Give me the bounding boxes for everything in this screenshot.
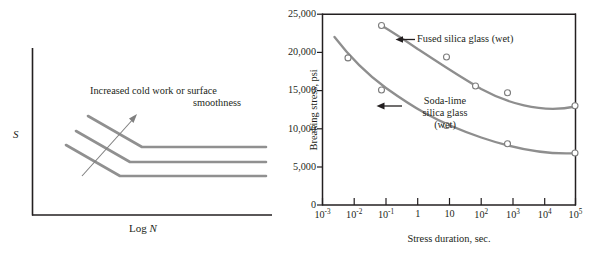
- left-annotation-line-2: smoothness: [90, 97, 255, 109]
- left-y-axis-label: S: [13, 128, 19, 140]
- x-axis-title: Stress duration, sec.: [407, 233, 490, 245]
- left-curve-group: [66, 116, 266, 176]
- x-tick-label-1e-1: 10-1: [378, 208, 394, 221]
- annotation-fused-silica: Fused silica glass (wet): [417, 33, 513, 45]
- y-tick-label-5000: 5,000: [254, 161, 316, 172]
- x-tick-mantissa: 10: [474, 209, 484, 220]
- x-tick-mantissa: 1: [415, 208, 420, 219]
- annotation-soda-line-3: (wet): [408, 119, 482, 131]
- x-tick-mantissa: 10: [314, 209, 324, 220]
- left-chart-annotation: Increased cold work or surface smoothnes…: [90, 85, 255, 108]
- annotation-soda-line-1: Soda-lime: [408, 95, 482, 107]
- left-x-axis-label-var: N: [150, 222, 157, 234]
- x-tick-marks: [323, 198, 576, 205]
- x-tick-mantissa: 10: [444, 208, 454, 219]
- y-tick-label-25000: 25,000: [254, 8, 316, 19]
- x-tick-exponent: -2: [356, 208, 362, 216]
- x-tick-label-1: 1: [415, 208, 420, 219]
- x-tick-mantissa: 10: [506, 209, 516, 220]
- left-chart-panel: S Log N Increased cold work or surface s…: [0, 0, 290, 257]
- x-tick-label-1e4: 104: [538, 208, 552, 221]
- x-tick-label-10: 10: [444, 208, 454, 219]
- data-point: [473, 83, 479, 89]
- y-tick-label-15000: 15,000: [254, 84, 316, 95]
- y-tick-label-10000: 10,000: [254, 123, 316, 134]
- x-tick-mantissa: 10: [378, 209, 388, 220]
- data-point: [572, 150, 578, 156]
- right-chart-panel: 25,000 20,000 15,000 10,000 5,000 0 10-3…: [290, 0, 597, 257]
- annotation-soda-line-2: silica glass: [408, 107, 482, 119]
- annotation-soda-lime: Soda-lime silica glass (wet): [408, 95, 482, 131]
- x-tick-exponent: 2: [484, 208, 488, 216]
- sn-curve-high: [88, 116, 266, 147]
- data-point: [572, 103, 578, 109]
- x-tick-mantissa: 10: [569, 209, 579, 220]
- x-tick-exponent: -3: [325, 208, 331, 216]
- x-tick-mantissa: 10: [346, 209, 356, 220]
- x-tick-label-1e2: 102: [474, 208, 488, 221]
- x-tick-exponent: 4: [548, 208, 552, 216]
- x-tick-exponent: 5: [579, 208, 583, 216]
- left-x-axis-label-prefix: Log: [129, 222, 147, 234]
- increase-direction-arrow: [82, 114, 137, 176]
- data-point: [505, 90, 511, 96]
- y-tick-label-0: 0: [254, 199, 316, 210]
- x-tick-exponent: 3: [516, 208, 520, 216]
- y-tick-label-20000: 20,000: [254, 46, 316, 57]
- x-tick-mantissa: 10: [538, 209, 548, 220]
- figure-root: S Log N Increased cold work or surface s…: [0, 0, 597, 257]
- left-annotation-line-1: Increased cold work or surface: [90, 85, 255, 97]
- annotation-arrow-soda: [377, 103, 403, 110]
- data-point: [345, 55, 351, 61]
- left-x-axis-label: Log N: [129, 222, 157, 234]
- x-tick-exponent: -1: [388, 208, 394, 216]
- x-tick-label-1e-2: 10-2: [346, 208, 362, 221]
- data-point: [505, 141, 511, 147]
- x-tick-label-1e-3: 10-3: [314, 208, 330, 221]
- left-chart-svg: [0, 0, 290, 257]
- data-point: [444, 54, 450, 60]
- data-point: [379, 87, 385, 93]
- y-axis-title: Breaking stress, psi: [308, 40, 320, 180]
- data-point: [379, 23, 385, 29]
- x-tick-label-1e5: 105: [569, 208, 583, 221]
- x-tick-label-1e3: 103: [506, 208, 520, 221]
